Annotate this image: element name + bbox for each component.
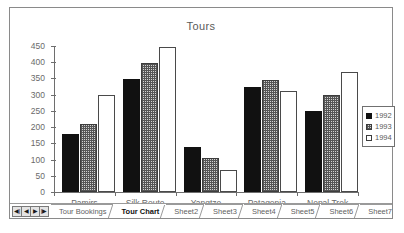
legend-entry-label: 1994 bbox=[375, 133, 392, 142]
value-axis-tick: 250 bbox=[51, 111, 56, 112]
value-axis-tick-label: 200 bbox=[31, 122, 45, 132]
value-axis-tick: 100 bbox=[51, 160, 56, 161]
plot-area: 050100150200250300350400450 PamirsSilk R… bbox=[54, 46, 358, 192]
legend-entry[interactable]: 1992 bbox=[366, 110, 391, 121]
legend-entry[interactable]: 1994 bbox=[366, 132, 391, 143]
bar-group bbox=[60, 46, 117, 192]
legend-entry[interactable]: 1993 bbox=[366, 121, 391, 132]
bar-1994[interactable] bbox=[159, 47, 176, 192]
legend-entry-label: 1993 bbox=[375, 122, 392, 131]
bar-1993[interactable] bbox=[80, 124, 97, 192]
bar-group bbox=[242, 46, 299, 192]
category-axis-tick bbox=[297, 192, 298, 196]
value-axis-tick: 300 bbox=[51, 95, 56, 96]
category-axis-tick bbox=[236, 192, 237, 196]
category-axis-tick bbox=[358, 192, 359, 196]
sheet-tabs: Tour BookingsTour ChartSheet2Sheet3Sheet… bbox=[51, 204, 392, 218]
category-axis-tick bbox=[54, 192, 55, 196]
bar-1993[interactable] bbox=[141, 63, 158, 192]
value-axis-tick-label: 0 bbox=[40, 187, 45, 197]
value-axis-tick-label: 400 bbox=[31, 57, 45, 67]
value-axis-tick: 50 bbox=[51, 176, 56, 177]
sheet-tab-sheet4[interactable]: Sheet4 bbox=[244, 204, 282, 218]
last-sheet-button[interactable]: |▶ bbox=[39, 206, 49, 217]
bar-1992[interactable] bbox=[62, 134, 79, 192]
chart-legend: 199219931994 bbox=[362, 106, 395, 147]
bar-1993[interactable] bbox=[323, 95, 340, 192]
chart-window: Tours 050100150200250300350400450 Pamirs… bbox=[9, 7, 393, 219]
value-axis-tick: 200 bbox=[51, 127, 56, 128]
sheet-tab-sheet7[interactable]: Sheet7 bbox=[360, 204, 392, 218]
chart-canvas: Tours 050100150200250300350400450 Pamirs… bbox=[10, 8, 392, 200]
value-axis-tick-label: 100 bbox=[31, 155, 45, 165]
bar-1992[interactable] bbox=[123, 79, 140, 192]
chart-title: Tours bbox=[10, 20, 392, 32]
sheet-tab-tour-chart[interactable]: Tour Chart bbox=[114, 204, 166, 218]
value-axis-tick-label: 150 bbox=[31, 138, 45, 148]
value-axis-tick-label: 300 bbox=[31, 90, 45, 100]
value-axis-tick-label: 50 bbox=[36, 171, 45, 181]
bar-group bbox=[182, 46, 239, 192]
bar-1994[interactable] bbox=[280, 91, 297, 192]
value-axis-tick-label: 250 bbox=[31, 106, 45, 116]
bar-1992[interactable] bbox=[305, 111, 322, 192]
value-axis-tick: 400 bbox=[51, 62, 56, 63]
bar-group bbox=[303, 46, 360, 192]
bar-1994[interactable] bbox=[98, 95, 115, 192]
category-axis-tick bbox=[115, 192, 116, 196]
bar-1994[interactable] bbox=[341, 72, 358, 192]
legend-entry-label: 1992 bbox=[375, 111, 392, 120]
bar-1993[interactable] bbox=[202, 158, 219, 192]
sheet-navigation-buttons: ◀|◀▶|▶ bbox=[10, 204, 48, 218]
hatched-gray-swatch bbox=[366, 124, 372, 130]
value-axis-tick-label: 450 bbox=[31, 41, 45, 51]
value-axis-line bbox=[54, 46, 55, 192]
bar-1992[interactable] bbox=[244, 87, 261, 192]
value-axis-tick-label: 350 bbox=[31, 73, 45, 83]
bar-1993[interactable] bbox=[262, 80, 279, 192]
value-axis-tick: 450 bbox=[51, 46, 56, 47]
solid-black-swatch bbox=[366, 113, 372, 119]
category-axis-tick bbox=[176, 192, 177, 196]
sheet-tab-bar: ◀|◀▶|▶ Tour BookingsTour ChartSheet2Shee… bbox=[10, 203, 392, 218]
bar-1994[interactable] bbox=[220, 170, 237, 192]
value-axis-tick: 150 bbox=[51, 143, 56, 144]
empty-white-swatch bbox=[366, 135, 372, 141]
category-axis-line bbox=[54, 192, 358, 193]
bar-1992[interactable] bbox=[184, 147, 201, 192]
value-axis-tick: 350 bbox=[51, 78, 56, 79]
bar-group bbox=[121, 46, 178, 192]
sheet-tab-tour-bookings[interactable]: Tour Bookings bbox=[51, 204, 113, 218]
sheet-tab-sheet3[interactable]: Sheet3 bbox=[205, 204, 243, 218]
